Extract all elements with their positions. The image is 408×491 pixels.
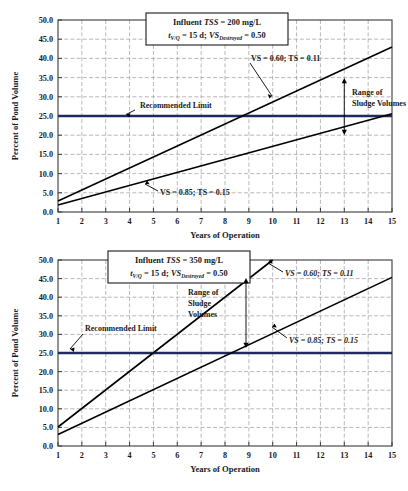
x-tick-label: 5 (151, 217, 155, 226)
y-tick-label: 5.0 (43, 423, 53, 432)
y-tick-label: 10.0 (39, 405, 53, 414)
annotation-upper-series-label: VS = 0.60; TS = 0.11 (285, 269, 353, 278)
y-tick-label: 25.0 (39, 112, 53, 121)
annotation-recommended-limit-label: Recommended Limit (140, 101, 212, 110)
x-tick-label: 6 (175, 451, 179, 460)
y-axis-title: Percent of Pond Volume (10, 72, 20, 161)
annotation-lower-series-label: VS = 0.85; TS = 0.15 (289, 336, 358, 345)
x-tick-label: 3 (104, 217, 108, 226)
x-tick-label: 1 (56, 217, 60, 226)
infobox-line-2: tV/Q = 15 d; VSDestroyed = 0.50 (168, 31, 266, 41)
y-tick-label: 50.0 (39, 256, 53, 265)
y-tick-label: 45.0 (39, 275, 53, 284)
y-tick-label: 0.0 (43, 442, 53, 451)
x-tick-label: 2 (80, 217, 84, 226)
x-tick-label: 14 (364, 451, 372, 460)
x-tick-label: 8 (223, 217, 227, 226)
y-tick-label: 30.0 (39, 93, 53, 102)
x-tick-label: 4 (128, 217, 132, 226)
chart-panel-tss-200: 0.0 5.0 10.0 15.0 20.0 25.0 30.0 35.0 40… (0, 0, 408, 245)
y-tick-label: 15.0 (39, 150, 53, 159)
x-axis-tick-labels: 1 2 3 4 5 6 7 8 9 10 11 12 13 14 15 (56, 217, 396, 226)
x-tick-label: 15 (388, 451, 396, 460)
x-tick-label: 8 (223, 451, 227, 460)
annotation-range-line-2: Sludge Volumes (352, 99, 406, 108)
x-tick-label: 7 (199, 451, 203, 460)
annotation-lower-series-label: VS = 0.85; TS = 0.15 (160, 188, 230, 197)
y-tick-label: 15.0 (39, 386, 53, 395)
annotation-upper-series-label: VS = 0.60; TS = 0.11 (251, 54, 320, 63)
x-tick-label: 10 (269, 451, 277, 460)
chart-svg-top: 0.0 5.0 10.0 15.0 20.0 25.0 30.0 35.0 40… (0, 0, 408, 245)
annotation-range-line-3: Volumes (188, 310, 217, 319)
y-tick-label: 20.0 (39, 131, 53, 140)
y-tick-label: 10.0 (39, 170, 53, 179)
x-tick-label: 11 (293, 217, 301, 226)
infobox-line-1: Influent TSS = 200 mg/L (173, 18, 261, 27)
infobox-line-1: Influent TSS = 350 mg/L (135, 256, 223, 265)
x-tick-label: 9 (247, 217, 251, 226)
chart-panel-tss-350: 0.0 5.0 10.0 15.0 20.0 25.0 30.0 35.0 40… (0, 246, 408, 491)
annotation-range-line-1: Range of (188, 288, 219, 297)
x-tick-label: 10 (269, 217, 277, 226)
y-tick-label: 40.0 (39, 54, 53, 63)
x-tick-label: 2 (80, 451, 84, 460)
y-tick-label: 35.0 (39, 312, 53, 321)
y-axis-tick-labels: 0.0 5.0 10.0 15.0 20.0 25.0 30.0 35.0 40… (39, 256, 53, 451)
x-tick-label: 12 (316, 451, 324, 460)
y-tick-label: 45.0 (39, 35, 53, 44)
y-tick-label: 5.0 (43, 189, 53, 198)
x-axis-title: Years of Operation (190, 464, 260, 474)
x-tick-label: 7 (199, 217, 203, 226)
y-tick-label: 0.0 (43, 208, 53, 217)
x-tick-label: 12 (316, 217, 324, 226)
y-axis-tick-labels: 0.0 5.0 10.0 15.0 20.0 25.0 30.0 35.0 40… (39, 16, 53, 217)
y-tick-label: 40.0 (39, 293, 53, 302)
x-tick-label: 6 (175, 217, 179, 226)
x-axis-tick-labels: 1 2 3 4 5 6 7 8 9 10 11 12 13 14 15 (56, 451, 396, 460)
y-tick-label: 35.0 (39, 74, 53, 83)
x-tick-label: 14 (364, 217, 372, 226)
x-tick-label: 13 (340, 451, 348, 460)
x-axis-title: Years of Operation (190, 230, 260, 240)
x-tick-label: 9 (247, 451, 251, 460)
x-tick-label: 11 (293, 451, 301, 460)
x-tick-label: 4 (128, 451, 132, 460)
annotation-recommended-limit-label: Recommended Limit (85, 324, 157, 333)
annotation-range-line-2: Sludge (188, 299, 212, 308)
x-tick-label: 1 (56, 451, 60, 460)
y-tick-label: 50.0 (39, 16, 53, 25)
infobox-line-2: tV/Q = 15 d; VSDestroyed = 0.50 (130, 269, 228, 279)
x-tick-label: 3 (104, 451, 108, 460)
x-tick-label: 5 (151, 451, 155, 460)
y-tick-label: 25.0 (39, 349, 53, 358)
x-tick-label: 15 (388, 217, 396, 226)
annotation-range-line-1: Range of (352, 88, 383, 97)
y-tick-label: 20.0 (39, 368, 53, 377)
y-tick-label: 30.0 (39, 330, 53, 339)
chart-svg-bottom: 0.0 5.0 10.0 15.0 20.0 25.0 30.0 35.0 40… (0, 246, 408, 491)
x-tick-label: 13 (340, 217, 348, 226)
y-axis-title: Percent of Pond Volume (10, 309, 20, 398)
